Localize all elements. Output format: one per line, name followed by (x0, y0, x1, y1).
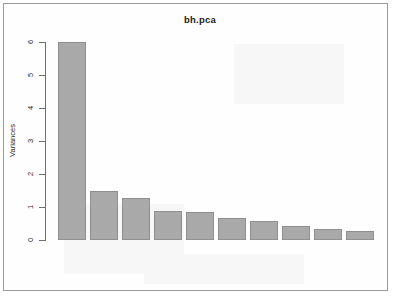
bar (314, 229, 342, 240)
bar (250, 221, 278, 240)
bar (90, 191, 118, 240)
bar (186, 212, 214, 240)
bar (346, 231, 374, 240)
bar (218, 218, 246, 240)
bar (282, 226, 310, 240)
bar-series (0, 0, 400, 299)
bar (122, 198, 150, 240)
screenshot-root: bh.pca Variances 0123456 (0, 0, 400, 299)
bar (154, 211, 182, 240)
bar (58, 42, 86, 240)
